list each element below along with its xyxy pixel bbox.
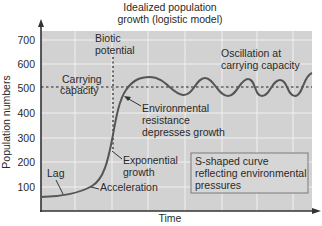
logistic-growth-chart: Idealized population growth (logistic mo… (0, 0, 322, 226)
y-axis-arrow-icon (38, 19, 44, 27)
annotation-biotic-line-1: Biotic (95, 32, 121, 44)
annotation-exponential-line-1: Exponential (123, 154, 178, 166)
annotation-acceleration: Acceleration (100, 181, 158, 193)
annotation-environmental-line-2: resistance (142, 114, 190, 126)
ytick-600: 600 (17, 58, 35, 70)
ytick-100: 100 (17, 181, 35, 193)
ytick-400: 400 (17, 107, 35, 119)
note-line-3: pressures (195, 179, 241, 191)
annotation-oscillation-line-1: Oscillation at (221, 47, 281, 59)
annotation-biotic-line-2: potential (95, 44, 135, 56)
annotation-environmental-line-3: depresses growth (142, 126, 225, 138)
note-line-2: reflecting environmental (195, 167, 306, 179)
ytick-200: 200 (17, 156, 35, 168)
annotation-oscillation-line-2: carrying capacity (221, 59, 301, 71)
ytick-700: 700 (17, 34, 35, 46)
s-curve-note-box: S-shaped curve reflecting environmental … (191, 153, 308, 193)
ytick-500: 500 (17, 82, 35, 94)
ytick-300: 300 (17, 132, 35, 144)
y-tick-labels: 100 200 300 400 500 600 700 (17, 34, 35, 193)
annotation-environmental-line-1: Environmental (142, 102, 209, 114)
x-axis-arrow-icon (312, 208, 321, 214)
annotation-lag: Lag (47, 167, 65, 179)
note-line-1: S-shaped curve (195, 155, 269, 167)
annotation-exponential-line-2: growth (123, 166, 155, 178)
annotation-carrying-line-2: capacity (60, 84, 99, 96)
y-axis-label: Population numbers (0, 75, 12, 168)
x-axis-label: Time (159, 212, 182, 224)
title-line-1: Idealized population (123, 1, 217, 13)
title-line-2: growth (logistic model) (117, 13, 222, 25)
chart-title: Idealized population growth (logistic mo… (117, 1, 222, 25)
